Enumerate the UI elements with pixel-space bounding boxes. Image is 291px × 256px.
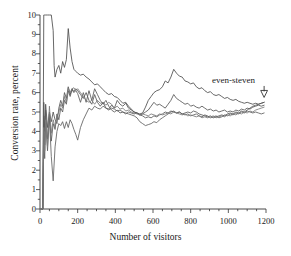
y-tick-label: 7 [18, 68, 36, 78]
y-tick-label: 6 [18, 87, 36, 97]
y-tick-label: 0 [18, 204, 36, 214]
y-tick-label: 10 [18, 10, 36, 20]
x-tick-label: 1200 [248, 216, 284, 226]
x-tick-label: 400 [97, 216, 133, 226]
x-tick-label: 600 [135, 216, 171, 226]
even-steven-annotation-text: even-steven [212, 75, 255, 85]
x-tick-label: 0 [22, 216, 58, 226]
y-tick-label: 8 [18, 48, 36, 58]
x-tick-label: 800 [173, 216, 209, 226]
even-steven-annotation-arrow [261, 86, 268, 97]
y-tick-label: 9 [18, 29, 36, 39]
series-line-2 [42, 87, 264, 209]
series-line-1 [42, 15, 264, 209]
y-tick-label: 1 [18, 184, 36, 194]
x-tick-label: 1000 [210, 216, 246, 226]
chart-figure: Conversion rate, percent Number of visit… [0, 0, 291, 256]
y-tick-label: 3 [18, 145, 36, 155]
series-line-3 [42, 89, 264, 209]
series-line-4 [42, 106, 264, 209]
series-line-5 [42, 88, 264, 209]
x-tick-label: 200 [60, 216, 96, 226]
y-tick-label: 2 [18, 165, 36, 175]
y-tick-label: 5 [18, 107, 36, 117]
y-tick-label: 4 [18, 126, 36, 136]
